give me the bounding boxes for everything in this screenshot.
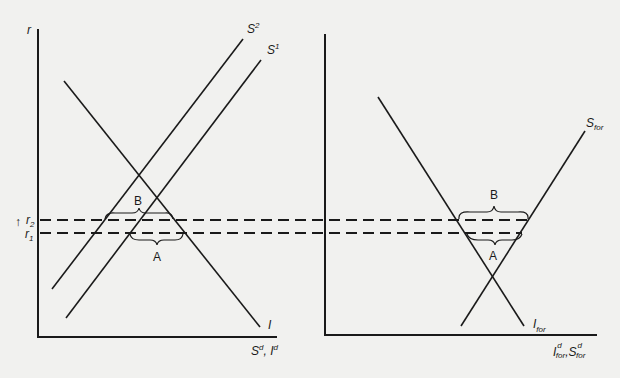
right-panel: Sfor Ifor Idfor,Sdfor B A — [324, 34, 604, 360]
y-axis-label-r: r — [27, 23, 32, 37]
label-i-for: Ifor — [533, 317, 546, 334]
left-x-axis-label: Sd, Id — [251, 343, 278, 358]
label-b-left: B — [134, 194, 142, 208]
label-s1: S1 — [267, 42, 279, 57]
saving-curve-2 — [52, 39, 243, 289]
up-arrow-icon: ↑ — [15, 215, 21, 229]
brace-b-left — [105, 208, 173, 219]
label-a-right: A — [489, 249, 497, 263]
label-a-left: A — [153, 250, 161, 264]
brace-b-right — [459, 206, 528, 219]
left-panel: r S2 S1 I Sd, Id ↑ r2 r1 B A — [15, 21, 279, 358]
label-b-right: B — [490, 188, 498, 202]
label-r1: r1 — [25, 227, 33, 243]
saving-curve-1 — [66, 60, 261, 318]
foreign-saving-curve — [461, 131, 585, 326]
brace-a-left — [130, 234, 183, 245]
label-i: I — [268, 318, 272, 332]
investment-curve — [64, 81, 260, 327]
label-s2: S2 — [247, 21, 260, 36]
diagram: r S2 S1 I Sd, Id ↑ r2 r1 B A — [0, 0, 620, 378]
right-x-axis-label: Idfor,Sdfor — [553, 341, 586, 360]
label-s-for: Sfor — [586, 116, 604, 132]
